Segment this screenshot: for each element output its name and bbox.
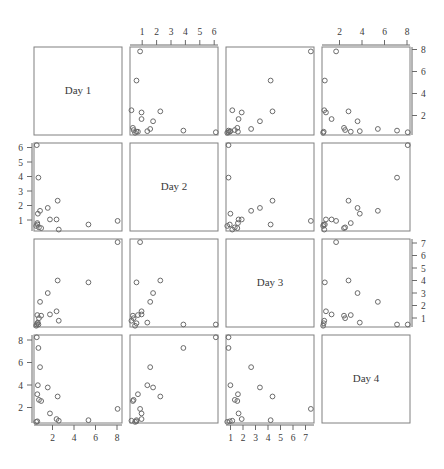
panel-day3-day3: Day 3 (226, 239, 314, 327)
data-point (181, 128, 186, 133)
tick-label: 6 (18, 358, 23, 368)
data-point (355, 119, 360, 124)
data-point (375, 299, 380, 304)
data-point (239, 417, 244, 422)
tick-label: 2 (154, 27, 159, 37)
tick-label: 4 (360, 27, 365, 37)
tick-label: 6 (421, 251, 426, 261)
data-point (138, 240, 143, 245)
panel-frame (322, 47, 410, 135)
tick-label: 2 (18, 403, 23, 413)
panel-day4-day3: 1 2 3 4 5 6 7 (225, 335, 314, 443)
panel-day3-day2 (129, 239, 218, 328)
data-point (138, 49, 143, 54)
data-point (334, 49, 339, 54)
data-point (115, 219, 120, 224)
tick-label: 7 (303, 433, 308, 443)
data-point (35, 383, 40, 388)
data-point (148, 299, 153, 304)
data-point (346, 109, 351, 114)
tick-label: 4 (266, 433, 271, 443)
panel-frame (226, 335, 314, 423)
tick-label: 2 (421, 111, 426, 121)
tick-label: 2 (337, 27, 342, 37)
data-point (268, 418, 273, 423)
panel-day4-day1: 8 6 4 2 2 4 6 8 (18, 335, 122, 443)
tick-label: 8 (421, 45, 426, 55)
point-group (321, 143, 410, 232)
data-point (48, 411, 53, 416)
tick-label: 3 (18, 187, 23, 197)
data-point (329, 117, 334, 122)
data-point (158, 394, 163, 399)
data-point (86, 280, 91, 285)
data-point (115, 240, 120, 245)
data-point (405, 322, 410, 327)
data-point (56, 318, 61, 323)
data-point (226, 175, 231, 180)
panel-frame (130, 239, 218, 327)
data-point (38, 365, 43, 370)
tick-label: 6 (421, 67, 426, 77)
tick-label: 5 (278, 433, 283, 443)
data-point (324, 217, 329, 222)
data-point (228, 211, 233, 216)
point-group (34, 240, 120, 328)
data-point (236, 117, 241, 122)
data-point (48, 217, 53, 222)
data-point (158, 278, 163, 283)
diagonal-label-day3: Day 3 (257, 276, 284, 288)
tick-label: 2 (241, 433, 246, 443)
panel-frame (226, 143, 314, 231)
panel-day1-day2: 1 2 3 4 5 6 (129, 27, 218, 135)
tick-label: 4 (421, 276, 426, 286)
data-point (138, 407, 143, 412)
data-point (151, 119, 156, 124)
axis-top-day2: 1 2 3 4 5 6 (130, 27, 218, 45)
data-point (54, 309, 59, 314)
data-point (324, 309, 329, 314)
data-point (348, 221, 353, 226)
data-point (145, 383, 150, 388)
panel-frame (130, 47, 218, 135)
data-point (308, 219, 313, 224)
panel-day4-day4: Day 4 (322, 335, 410, 423)
data-point (346, 278, 351, 283)
data-point (375, 208, 380, 213)
data-point (55, 394, 60, 399)
data-point (239, 110, 244, 115)
axis-left-day2: 6 5 4 3 2 1 (18, 143, 32, 231)
axis-right-day3: 7 6 5 4 3 2 1 (412, 239, 426, 328)
point-group (34, 335, 120, 424)
data-point (36, 346, 41, 351)
data-point (45, 206, 50, 211)
data-point (86, 222, 91, 227)
data-point (249, 365, 254, 370)
data-point (258, 119, 263, 124)
diagonal-label-day4: Day 4 (353, 372, 380, 384)
data-point (405, 130, 410, 135)
tick-label: 3 (421, 289, 426, 299)
point-group (225, 143, 313, 232)
data-point (230, 108, 235, 113)
data-point (322, 280, 327, 285)
data-point (268, 222, 273, 227)
data-point (268, 78, 273, 83)
data-point (181, 346, 186, 351)
data-point (139, 110, 144, 115)
data-point (270, 394, 275, 399)
data-point (145, 320, 150, 325)
data-point (48, 312, 53, 317)
tick-label: 1 (228, 433, 233, 443)
tick-label: 6 (382, 27, 387, 37)
axis-left-day4: 8 6 4 2 (18, 335, 32, 423)
data-point (348, 129, 353, 134)
point-group (321, 49, 410, 135)
data-point (270, 198, 275, 203)
tick-label: 6 (93, 433, 98, 443)
data-point (334, 240, 339, 245)
axis-bottom-day1: 2 4 6 8 (34, 425, 122, 443)
panel-frame (34, 143, 122, 231)
data-point (308, 407, 313, 412)
tick-label: 6 (18, 143, 23, 153)
